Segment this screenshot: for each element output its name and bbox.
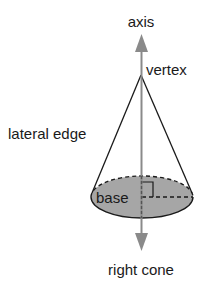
vertex-label: vertex	[146, 61, 187, 78]
axis-label: axis	[128, 13, 155, 30]
lateral-edge-right	[141, 75, 192, 193]
axis-arrow-up-icon	[135, 34, 148, 52]
lateral-edge-left	[92, 75, 141, 193]
right-cone-diagram: axis vertex lateral edge base right cone	[0, 0, 209, 291]
caption-label: right cone	[108, 261, 174, 278]
base-label: base	[96, 189, 129, 206]
lateral-edge-label: lateral edge	[8, 125, 86, 142]
axis-arrow-down-icon	[135, 233, 148, 251]
